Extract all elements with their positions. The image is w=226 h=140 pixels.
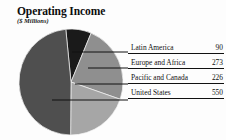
legend-value: 550 xyxy=(212,88,223,97)
pie-chart-svg xyxy=(17,27,125,137)
legend-row-latin-america[interactable]: Latin America 90 xyxy=(128,42,224,57)
legend-value: 90 xyxy=(216,43,223,52)
legend-rule xyxy=(128,98,224,99)
legend: Latin America 90 Europe and Africa 273 P… xyxy=(128,42,224,102)
pie-chart xyxy=(17,27,125,137)
chart-page: Operating Income ($ Millions) Latin Amer… xyxy=(0,0,226,140)
legend-value: 273 xyxy=(212,58,223,67)
pie-slice-united-states[interactable] xyxy=(19,29,71,135)
legend-label: Pacific and Canada xyxy=(131,73,188,82)
legend-rule xyxy=(128,83,224,84)
chart-subtitle: ($ Millions) xyxy=(17,17,157,25)
legend-rule xyxy=(128,53,224,54)
page-title: Operating Income xyxy=(17,5,157,17)
legend-value: 226 xyxy=(212,73,223,82)
legend-rule xyxy=(128,68,224,69)
legend-row-europe-and-africa[interactable]: Europe and Africa 273 xyxy=(128,57,224,72)
legend-label: Latin America xyxy=(131,43,173,52)
title-block: Operating Income ($ Millions) xyxy=(17,5,157,25)
legend-row-pacific-and-canada[interactable]: Pacific and Canada 226 xyxy=(128,72,224,87)
legend-label: Europe and Africa xyxy=(131,58,185,67)
legend-label: United States xyxy=(131,88,171,97)
legend-row-united-states[interactable]: United States 550 xyxy=(128,87,224,102)
